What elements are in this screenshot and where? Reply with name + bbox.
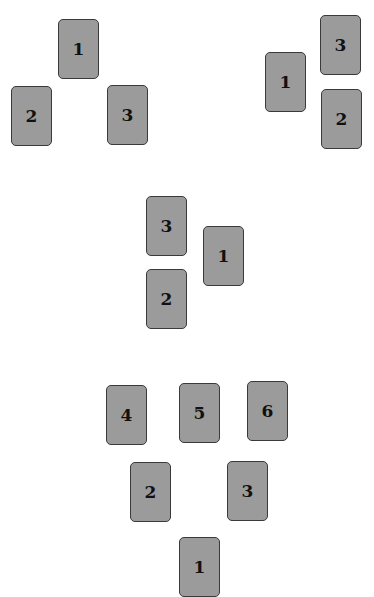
card-position-4: 4 xyxy=(106,385,147,445)
card-position-2: 2 xyxy=(130,462,171,522)
card-position-6: 6 xyxy=(247,381,288,441)
card-number: 6 xyxy=(262,403,274,420)
card-position-1: 1 xyxy=(179,537,220,597)
card-number: 3 xyxy=(242,483,254,500)
card-number: 5 xyxy=(194,405,206,422)
card-position-3: 3 xyxy=(227,461,268,521)
card-number: 1 xyxy=(194,559,206,576)
card-number: 4 xyxy=(121,407,133,424)
card-number: 2 xyxy=(145,484,157,501)
card-position-5: 5 xyxy=(179,383,220,443)
